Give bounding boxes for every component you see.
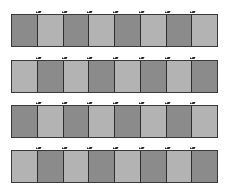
- dark-box: [63, 106, 89, 137]
- dark-box: [114, 15, 140, 46]
- divider-tick-icon: [87, 11, 89, 13]
- divider-tick-icon: [165, 147, 167, 149]
- divider-tick-icon: [62, 102, 64, 104]
- divider-tick-icon: [62, 11, 64, 13]
- dark-box: [140, 151, 166, 182]
- divider-tick-icon: [36, 147, 38, 149]
- light-box: [166, 151, 192, 182]
- divider-tick-icon: [190, 57, 192, 59]
- light-box: [12, 61, 37, 92]
- light-box: [37, 106, 63, 137]
- divider-tick-icon: [139, 11, 141, 13]
- strip-row-2: [11, 60, 218, 93]
- dark-box: [88, 151, 114, 182]
- divider-tick-icon: [36, 11, 38, 13]
- divider-tick-icon: [165, 11, 167, 13]
- dark-box: [140, 61, 166, 92]
- divider-tick-icon: [87, 102, 89, 104]
- strip-row-1: [11, 14, 218, 47]
- dark-box: [191, 151, 217, 182]
- strip-row-4: [11, 150, 218, 183]
- dark-box: [37, 61, 63, 92]
- light-box: [140, 15, 166, 46]
- divider-tick-icon: [139, 102, 141, 104]
- light-box: [12, 151, 37, 182]
- dark-box: [37, 151, 63, 182]
- light-box: [88, 15, 114, 46]
- divider-tick-icon: [190, 147, 192, 149]
- divider-tick-icon: [190, 11, 192, 13]
- dark-box: [88, 61, 114, 92]
- divider-tick-icon: [113, 11, 115, 13]
- divider-tick-icon: [62, 147, 64, 149]
- divider-tick-icon: [113, 147, 115, 149]
- dark-box: [166, 106, 192, 137]
- divider-tick-icon: [165, 57, 167, 59]
- divider-tick-icon: [62, 57, 64, 59]
- light-box: [191, 106, 217, 137]
- strip-row-3: [11, 105, 218, 138]
- divider-tick-icon: [87, 57, 89, 59]
- divider-tick-icon: [190, 102, 192, 104]
- dark-box: [12, 106, 37, 137]
- divider-tick-icon: [165, 102, 167, 104]
- divider-tick-icon: [139, 57, 141, 59]
- divider-tick-icon: [113, 102, 115, 104]
- dark-box: [114, 106, 140, 137]
- divider-tick-icon: [113, 57, 115, 59]
- light-box: [63, 151, 89, 182]
- light-box: [37, 15, 63, 46]
- light-box: [191, 15, 217, 46]
- divider-tick-icon: [36, 102, 38, 104]
- dark-box: [191, 61, 217, 92]
- light-box: [114, 151, 140, 182]
- light-box: [166, 61, 192, 92]
- light-box: [63, 61, 89, 92]
- divider-tick-icon: [87, 147, 89, 149]
- divider-tick-icon: [139, 147, 141, 149]
- light-box: [88, 106, 114, 137]
- light-box: [114, 61, 140, 92]
- divider-tick-icon: [36, 57, 38, 59]
- dark-box: [166, 15, 192, 46]
- light-box: [140, 106, 166, 137]
- dark-box: [63, 15, 89, 46]
- dark-box: [12, 15, 37, 46]
